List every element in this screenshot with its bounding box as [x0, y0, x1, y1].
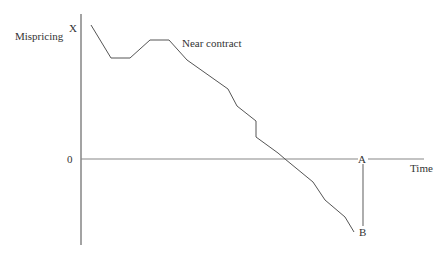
near-contract-curve — [91, 25, 354, 232]
x-axis-label: Time — [410, 162, 433, 174]
point-a-label: A — [358, 153, 366, 165]
y-zero-label: 0 — [67, 153, 73, 165]
y-top-marker: X — [69, 22, 77, 34]
point-b-label: B — [359, 226, 366, 238]
y-axis-label: Mispricing — [15, 30, 64, 42]
curve-label: Near contract — [182, 37, 242, 49]
mispricing-diagram: Mispricing X 0 Near contract A B Time — [0, 0, 448, 256]
